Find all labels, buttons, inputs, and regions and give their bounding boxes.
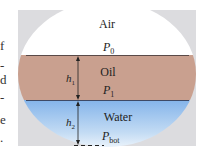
water-label: Water xyxy=(104,110,132,124)
fluid-diagram: Air P0 Oil P1 h1 Water Pbot h2 xyxy=(0,0,208,155)
air-label: Air xyxy=(99,17,115,31)
oil-label: Oil xyxy=(100,65,116,79)
